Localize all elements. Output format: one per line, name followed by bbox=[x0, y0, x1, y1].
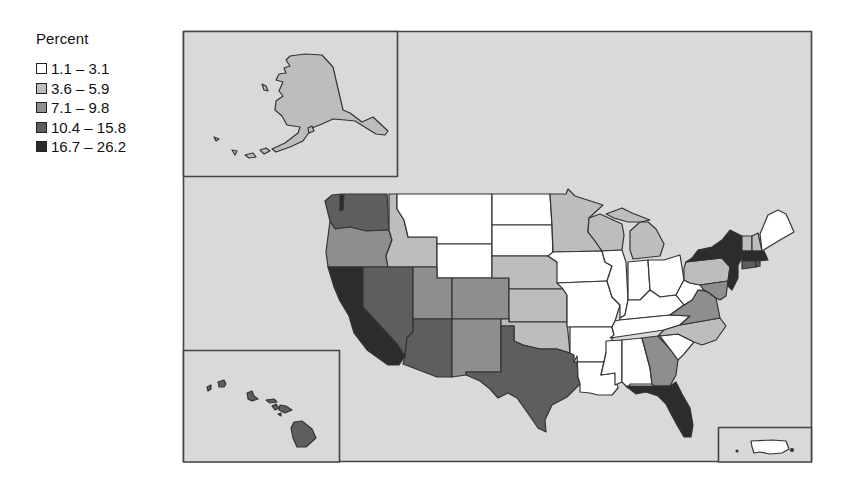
state-WY bbox=[437, 244, 492, 278]
state-SD bbox=[492, 225, 553, 257]
state-IA bbox=[548, 251, 612, 283]
hawaii-inset bbox=[184, 351, 340, 463]
state-MT bbox=[397, 194, 492, 244]
territory-PR bbox=[751, 440, 789, 454]
state-CO bbox=[452, 278, 509, 319]
state-VT bbox=[742, 236, 752, 251]
state-MA bbox=[742, 251, 768, 261]
puerto-rico-inset bbox=[719, 428, 812, 463]
state-NM bbox=[452, 319, 501, 377]
us-choropleth-map bbox=[0, 0, 843, 489]
alaska-inset bbox=[184, 32, 398, 177]
state-WA bbox=[325, 194, 389, 231]
state-ND bbox=[492, 194, 552, 225]
state-KS bbox=[509, 289, 567, 322]
state-CT bbox=[742, 261, 756, 269]
state-RI bbox=[756, 261, 760, 267]
